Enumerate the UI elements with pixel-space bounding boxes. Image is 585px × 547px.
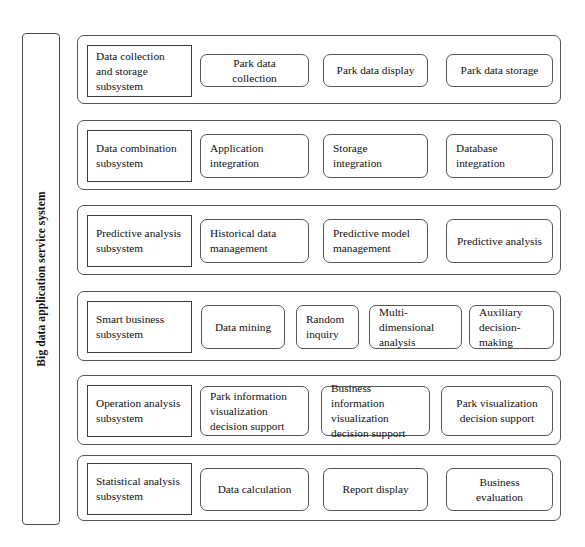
- architecture-diagram: Big data application service system Data…: [0, 0, 585, 547]
- module-box[interactable]: Database integration: [446, 134, 553, 178]
- subsystem-label: Smart business subsystem: [96, 312, 183, 342]
- subsystem-band: Data collection and storage subsystemPar…: [77, 35, 561, 104]
- module-box[interactable]: Auxiliary decision-making: [469, 305, 554, 349]
- module-box[interactable]: Multi-dimensional analysis: [369, 305, 462, 349]
- module-label: Random inquiry: [306, 312, 349, 342]
- module-box[interactable]: Random inquiry: [296, 305, 359, 349]
- module-box[interactable]: Report display: [323, 468, 428, 511]
- subsystem-box[interactable]: Data collection and storage subsystem: [87, 45, 192, 97]
- module-label: Storage integration: [333, 141, 418, 171]
- module-box[interactable]: Park visualization decision support: [441, 386, 553, 436]
- module-label: Database integration: [456, 141, 543, 171]
- subsystem-box[interactable]: Data combination subsystem: [87, 130, 192, 182]
- module-label: Historical data management: [210, 226, 299, 256]
- subsystem-band: Data combination subsystemApplication in…: [77, 120, 561, 190]
- module-box[interactable]: Business information visualization decis…: [321, 386, 430, 436]
- system-spine-container: Big data application service system: [22, 33, 60, 525]
- subsystem-label: Data combination subsystem: [96, 141, 183, 171]
- module-label: Predictive model management: [333, 226, 418, 256]
- module-box[interactable]: Business evaluation: [446, 468, 553, 511]
- module-label: Park data collection: [210, 56, 299, 86]
- module-box[interactable]: Predictive analysis: [446, 219, 553, 263]
- module-box[interactable]: Data calculation: [200, 468, 309, 511]
- module-box[interactable]: Historical data management: [200, 219, 309, 263]
- module-box[interactable]: Application integration: [200, 134, 309, 178]
- subsystem-band: Smart business subsystemData miningRando…: [77, 291, 561, 361]
- module-box[interactable]: Park data collection: [200, 54, 309, 87]
- subsystem-label: Statistical analysis subsystem: [96, 474, 183, 504]
- module-label: Multi-dimensional analysis: [379, 305, 452, 350]
- system-spine-label: Big data application service system: [35, 191, 47, 366]
- subsystem-box[interactable]: Operation analysis subsystem: [87, 385, 192, 437]
- module-label: Application integration: [210, 141, 299, 171]
- module-label: Data mining: [211, 320, 275, 335]
- module-label: Business evaluation: [456, 475, 543, 505]
- module-box[interactable]: Park data storage: [446, 54, 553, 87]
- subsystem-band: Operation analysis subsystemPark informa…: [77, 375, 561, 445]
- module-label: Park data display: [333, 63, 418, 78]
- module-box[interactable]: Park data display: [323, 54, 428, 87]
- subsystem-box[interactable]: Statistical analysis subsystem: [87, 463, 192, 515]
- subsystem-band: Statistical analysis subsystemData calcu…: [77, 455, 561, 521]
- module-box[interactable]: Data mining: [201, 305, 285, 349]
- module-label: Park information visualization decision …: [210, 389, 299, 434]
- module-label: Park visualization decision support: [451, 396, 543, 426]
- module-label: Business information visualization decis…: [331, 381, 420, 441]
- module-label: Predictive analysis: [456, 234, 543, 249]
- subsystem-label: Data collection and storage subsystem: [96, 49, 183, 94]
- subsystem-label: Operation analysis subsystem: [96, 396, 183, 426]
- module-box[interactable]: Storage integration: [323, 134, 428, 178]
- subsystem-box[interactable]: Predictive analysis subsystem: [87, 215, 192, 267]
- module-label: Report display: [333, 482, 418, 497]
- module-label: Auxiliary decision-making: [479, 305, 544, 350]
- module-label: Park data storage: [456, 63, 543, 78]
- subsystem-box[interactable]: Smart business subsystem: [87, 301, 192, 353]
- subsystem-label: Predictive analysis subsystem: [96, 226, 183, 256]
- module-label: Data calculation: [210, 482, 299, 497]
- module-box[interactable]: Predictive model management: [323, 219, 428, 263]
- subsystem-band: Predictive analysis subsystemHistorical …: [77, 205, 561, 275]
- module-box[interactable]: Park information visualization decision …: [200, 386, 309, 436]
